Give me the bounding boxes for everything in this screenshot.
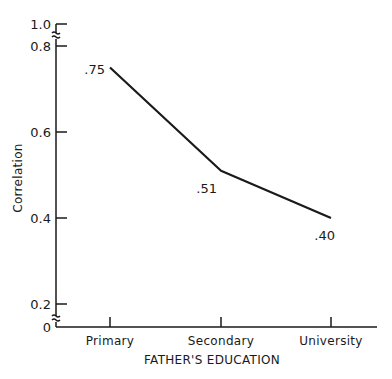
y-tick-label: 0.8 — [30, 39, 51, 54]
data-point-label: .40 — [314, 228, 335, 243]
y-ticks: 00.20.40.60.81.0 — [30, 17, 67, 335]
axis-break-top — [52, 32, 60, 38]
x-tick-label: Secondary — [188, 334, 254, 348]
y-tick-label: 0 — [43, 320, 51, 335]
y-axis — [52, 24, 60, 327]
data-line — [110, 68, 331, 219]
x-tick-label: University — [299, 334, 363, 348]
y-tick-label: 1.0 — [30, 17, 51, 32]
axis-break-bottom — [52, 315, 60, 321]
x-tick-label: Primary — [86, 334, 134, 348]
point-labels: .75.51.40 — [84, 62, 335, 244]
line-chart: 00.20.40.60.81.0 PrimarySecondaryUnivers… — [0, 0, 392, 379]
y-axis-title: Correlation — [11, 143, 25, 212]
x-axis-title: FATHER'S EDUCATION — [144, 353, 280, 367]
data-point-label: .51 — [196, 181, 217, 196]
x-ticks: PrimarySecondaryUniversity — [86, 317, 363, 348]
y-tick-label: 0.4 — [30, 211, 51, 226]
data-point-label: .75 — [84, 62, 105, 77]
y-tick-label: 0.2 — [30, 297, 51, 312]
y-tick-label: 0.6 — [30, 125, 51, 140]
